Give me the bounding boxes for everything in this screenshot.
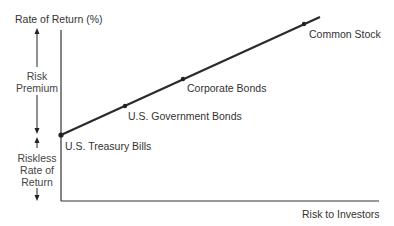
arrow-down-icon — [35, 195, 40, 201]
label-t-bills: U.S. Treasury Bills — [65, 140, 151, 152]
risk-premium-line-2: Premium — [9, 82, 65, 94]
arrow-up-icon — [35, 28, 40, 34]
riskless-rate-label: Riskless Rate of Return — [9, 152, 65, 188]
label-gov-bonds: U.S. Government Bonds — [128, 110, 242, 122]
label-corp-bonds: Corporate Bonds — [187, 82, 266, 94]
riskless-line-2: Rate of — [9, 164, 65, 176]
riskless-line-1: Riskless — [9, 152, 65, 164]
point-t-bills — [58, 132, 63, 137]
arrow-up-icon — [35, 137, 40, 143]
x-axis-label: Risk to Investors — [302, 208, 380, 220]
risk-premium-line-1: Risk — [9, 70, 65, 82]
label-common-stock: Common Stock — [309, 28, 381, 40]
y-axis-label: Rate of Return (%) — [15, 13, 103, 25]
riskless-line-3: Return — [9, 176, 65, 188]
arrow-down-icon — [35, 128, 40, 134]
risk-premium-label: Risk Premium — [9, 70, 65, 94]
point-common-stock — [302, 22, 306, 26]
point-corp-bonds — [181, 77, 185, 81]
point-gov-bonds — [123, 104, 127, 108]
